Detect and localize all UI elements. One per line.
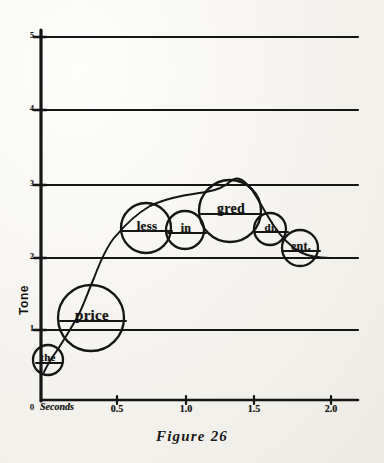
x-tick-label-3: 2.0 [325,403,338,414]
x-axis-title: Seconds [40,401,74,412]
bubble-label-price: price [75,307,109,324]
y-tick-label-5: 5 [30,31,34,40]
bubble-label-the: the [40,351,56,363]
pitch-contour-curve [44,178,330,372]
x-tick-label-1: 1.0 [180,403,193,414]
figure-caption: Figure 26 [0,428,384,445]
y-tick-label-4: 4 [30,104,34,113]
x-tick-label-0: 0.5 [111,403,124,414]
figure-26: the price less in gred di. ent. Tone 0 S… [0,0,384,463]
y-tick-label-3: 3 [30,179,34,188]
bubble-label-gred: gred [217,201,245,217]
y-axis-title: Tone [17,285,31,315]
syllable-bubbles [33,180,318,375]
intonation-plot [0,0,384,463]
y-tick-label-1: 1 [30,324,34,333]
x-tick-label-2: 1.5 [248,403,261,414]
bubble-label-less: less [137,218,158,234]
y-tick-label-2: 2 [30,252,34,261]
bubble-label-di: di. [265,221,278,233]
origin-tick-label: 0 [30,402,35,412]
bubble-label-in: in [181,221,192,236]
bubble-label-ent: ent. [291,239,311,254]
